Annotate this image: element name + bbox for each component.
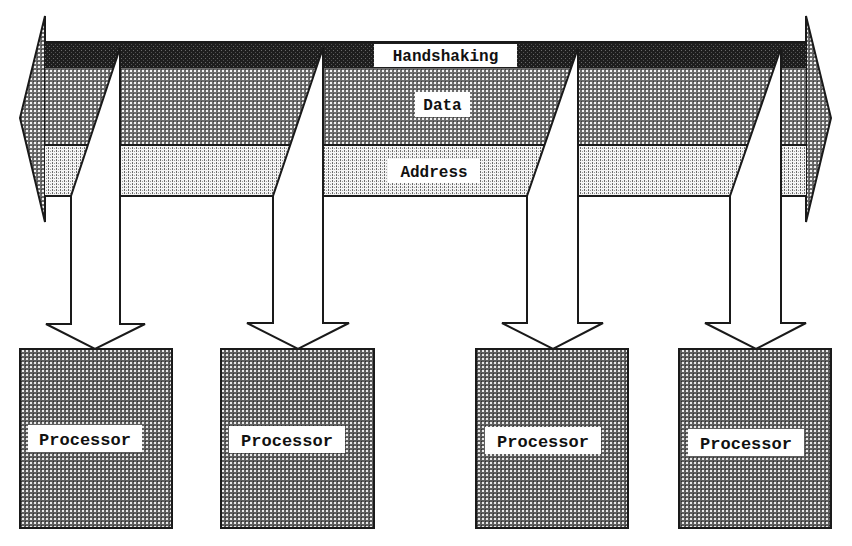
bus-diagram: Handshaking Data Address Processor Proce… xyxy=(0,0,852,546)
processor-4: Processor xyxy=(679,349,831,528)
bus-label-address: Address xyxy=(388,159,480,183)
processor-3: Processor xyxy=(476,349,628,528)
bus-left-arrowhead xyxy=(20,16,45,222)
bus-label-data-text: Data xyxy=(423,97,462,115)
processor-label: Processor xyxy=(241,432,333,451)
bus-label-data: Data xyxy=(415,92,470,117)
processor-label: Processor xyxy=(700,435,792,454)
bus-label-handshaking: Handshaking xyxy=(374,44,517,67)
bus-label-address-text: Address xyxy=(400,164,467,182)
processor-2: Processor xyxy=(221,349,374,528)
bus-right-arrowhead xyxy=(806,16,831,222)
processor-label: Processor xyxy=(497,433,589,452)
processor-label: Processor xyxy=(39,431,131,450)
bus-label-handshaking-text: Handshaking xyxy=(393,48,499,66)
processor-1: Processor xyxy=(20,349,172,528)
